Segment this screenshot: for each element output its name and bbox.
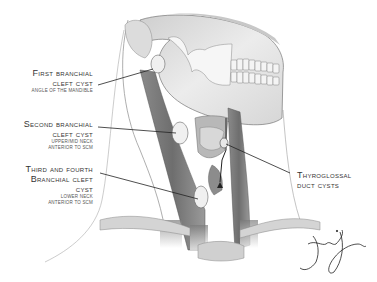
label-title: Third and fourth xyxy=(25,164,93,174)
label-title: cyst xyxy=(25,184,93,194)
label-title: Thyroglossal xyxy=(297,170,351,180)
label-thyroglossal-duct-cysts: Thyroglossal duct cysts xyxy=(297,170,351,190)
label-title: cleft cyst xyxy=(32,78,93,88)
first-branchial-cleft-cyst xyxy=(151,55,165,73)
label-first-branchial-cleft-cyst: First branchial cleft cyst Angle of the … xyxy=(32,68,93,94)
artist-signature xyxy=(300,230,366,273)
clavicles xyxy=(100,216,320,261)
label-title: duct cysts xyxy=(297,180,351,190)
label-subtitle: Angle of the mandible xyxy=(32,88,93,94)
label-third-fourth-branchial-cleft-cyst: Third and fourth Branchial cleft cyst Lo… xyxy=(25,164,93,205)
label-title: First branchial xyxy=(32,68,93,78)
label-subtitle: anterior to SCM xyxy=(25,200,93,206)
thyroglossal-duct-cyst xyxy=(220,138,228,148)
label-title: cleft cyst xyxy=(24,129,93,139)
label-second-branchial-cleft-cyst: Second branchial cleft cyst Upper/mid ne… xyxy=(24,119,93,150)
label-title: Second branchial xyxy=(24,119,93,129)
third-fourth-branchial-cleft-cyst xyxy=(194,186,208,208)
label-subtitle: anterior to SCM xyxy=(24,145,93,151)
label-title: Branchial cleft xyxy=(25,174,93,184)
larynx xyxy=(195,116,228,195)
